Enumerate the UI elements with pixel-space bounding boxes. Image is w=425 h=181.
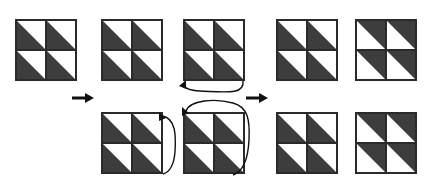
diagram-canvas — [0, 0, 425, 181]
curved-arrow-bottom-block-2-wrap — [0, 0, 425, 181]
